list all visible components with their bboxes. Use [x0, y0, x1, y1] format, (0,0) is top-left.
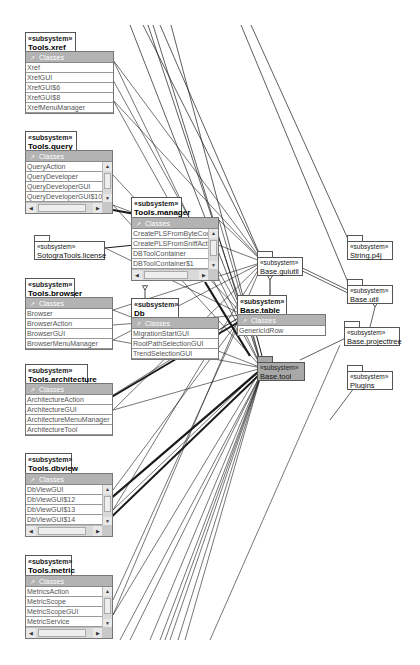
collapse-icon[interactable]: ↗ [242, 318, 247, 324]
class-item[interactable]: CreatePLSFromSniffAction [132, 239, 208, 249]
dependency-line [300, 336, 350, 360]
class-item[interactable]: TrendSelectionGUI [132, 349, 218, 359]
dependency-line [219, 220, 262, 368]
class-item[interactable]: MetricService [26, 617, 102, 627]
package-name: Base.tool [260, 372, 302, 381]
scroll-thumb[interactable] [104, 496, 111, 512]
class-item[interactable]: Browser [26, 309, 112, 319]
collapse-icon[interactable]: ↗ [30, 55, 35, 61]
dependency-line [120, 372, 262, 640]
class-item[interactable]: DbViewGUI$12 [26, 495, 102, 505]
scroll-left-icon[interactable]: ◀ [26, 628, 36, 638]
class-item[interactable]: XrefMenuManager [26, 103, 113, 113]
vertical-scrollbar[interactable]: ▲▼ [102, 587, 112, 628]
class-item[interactable]: MigrationStartGUI [132, 329, 218, 339]
stereotype-label: «subsystem» [350, 243, 390, 251]
class-item[interactable]: QueryDeveloper [26, 172, 102, 182]
class-item[interactable]: ArchitectureTool [26, 425, 112, 435]
package-header: «subsystem» Tools.architecture [25, 364, 88, 384]
horizontal-scrollbar[interactable]: ◀▶ [26, 525, 103, 536]
vertical-scrollbar[interactable]: ▲▼ [208, 229, 218, 270]
classes-compartment: ↗Classes QueryAction QueryDeveloper Quer… [25, 150, 113, 214]
class-item[interactable]: XrefGUI$8 [26, 93, 113, 103]
scroll-thumb[interactable] [38, 204, 86, 212]
scroll-up-icon[interactable]: ▲ [103, 485, 112, 494]
class-item[interactable]: MetricsAction [26, 587, 102, 597]
class-item[interactable]: XrefGUI$6 [26, 83, 113, 93]
scroll-corner [102, 627, 112, 638]
collapse-icon[interactable]: ↗ [136, 321, 141, 327]
collapse-icon[interactable]: ↗ [30, 579, 35, 585]
classes-compartment: ↗Classes Xref XrefGUI XrefGUI$6 XrefGUI$… [25, 51, 114, 114]
package-header: «subsystem» Db [131, 298, 179, 318]
scroll-left-icon[interactable]: ◀ [26, 526, 36, 536]
classes-header[interactable]: ↗Classes [26, 576, 112, 587]
scroll-corner [102, 202, 112, 213]
scroll-thumb[interactable] [104, 173, 111, 189]
classes-header[interactable]: ↗Classes [26, 298, 112, 309]
classes-header[interactable]: ↗Classes [132, 318, 218, 329]
scroll-thumb[interactable] [38, 527, 86, 535]
classes-header[interactable]: ↗Classes [26, 474, 112, 485]
horizontal-scrollbar[interactable]: ◀▶ [26, 202, 103, 213]
collapse-icon[interactable]: ↗ [30, 301, 35, 307]
stereotype-label: «subsystem» [240, 297, 284, 306]
stereotype-label: «subsystem» [28, 34, 73, 43]
package-name: Base.util [350, 295, 390, 304]
class-item[interactable]: QueryAction [26, 162, 102, 172]
scroll-left-icon[interactable]: ◀ [132, 270, 142, 280]
class-item[interactable]: MetricScopeGUI [26, 607, 102, 617]
arrowhead-icon [142, 286, 147, 290]
collapse-icon[interactable]: ↗ [30, 387, 35, 393]
classes-compartment: ↗Classes Browser BrowserAction BrowserGU… [25, 297, 113, 350]
class-item[interactable]: XrefGUI [26, 73, 113, 83]
package-name: Tools.dbview [28, 464, 69, 473]
class-item[interactable]: DBToolContainer$1 [132, 259, 208, 269]
class-item[interactable]: DbViewGUI$14 [26, 515, 102, 525]
scroll-thumb[interactable] [38, 629, 86, 637]
vertical-scrollbar[interactable]: ▲▼ [102, 485, 112, 526]
class-item[interactable]: ArchitectureGUI [26, 405, 112, 415]
scroll-up-icon[interactable]: ▲ [103, 587, 112, 596]
collapse-icon[interactable]: ↗ [136, 221, 141, 227]
class-item[interactable]: QueryDeveloperGUI [26, 182, 102, 192]
class-item[interactable]: ArchitectureAction [26, 395, 112, 405]
class-item[interactable]: Xref [26, 63, 113, 73]
package-name: Tools.metric [28, 566, 69, 575]
scroll-thumb[interactable] [144, 271, 188, 279]
vertical-scrollbar[interactable]: ▲▼ [102, 162, 112, 203]
package-body: «subsystem» String.p4j [347, 241, 393, 260]
class-item[interactable]: QueryDeveloperGUI$10 [26, 192, 102, 202]
horizontal-scrollbar[interactable]: ◀▶ [132, 269, 209, 280]
class-item[interactable]: BrowserMenuManager [26, 339, 112, 349]
classes-compartment: ↗Classes MetricsAction MetricScope Metri… [25, 575, 113, 639]
scroll-up-icon[interactable]: ▲ [209, 229, 218, 238]
scroll-left-icon[interactable]: ◀ [26, 203, 36, 213]
classes-header[interactable]: ↗Classes [26, 52, 113, 63]
classes-header[interactable]: ↗Classes [26, 151, 112, 162]
horizontal-scrollbar[interactable]: ◀▶ [26, 627, 103, 638]
classes-header[interactable]: ↗Classes [238, 315, 325, 326]
package-header: «subsystem» Tools.browser [25, 278, 75, 298]
class-item[interactable]: CreatePLSFromByteCode [132, 229, 208, 239]
class-item[interactable]: BrowserGUI [26, 329, 112, 339]
class-item[interactable]: ArchitectureMenuManager [26, 415, 112, 425]
class-item[interactable]: DbViewGUI [26, 485, 102, 495]
classes-compartment: ↗Classes MigrationStartGUI RootPathSelec… [131, 317, 219, 360]
collapse-icon[interactable]: ↗ [30, 477, 35, 483]
class-item[interactable]: BrowserAction [26, 319, 112, 329]
scroll-thumb[interactable] [104, 598, 111, 614]
scroll-thumb[interactable] [210, 240, 217, 256]
stereotype-label: «subsystem» [350, 287, 390, 295]
class-item[interactable]: GenericIdRow [238, 326, 325, 336]
class-item[interactable]: DBToolContainer [132, 249, 208, 259]
classes-header[interactable]: ↗Classes [26, 384, 112, 395]
class-item[interactable]: DbViewGUI$13 [26, 505, 102, 515]
package-body: «subsystem» Base.guiutil [257, 257, 303, 276]
classes-compartment: ↗Classes DbViewGUI DbViewGUI$12 DbViewGU… [25, 473, 113, 537]
class-item[interactable]: MetricScope [26, 597, 102, 607]
collapse-icon[interactable]: ↗ [30, 154, 35, 160]
scroll-up-icon[interactable]: ▲ [103, 162, 112, 171]
classes-header[interactable]: ↗Classes [132, 218, 218, 229]
class-item[interactable]: RootPathSelectionGUI [132, 339, 218, 349]
